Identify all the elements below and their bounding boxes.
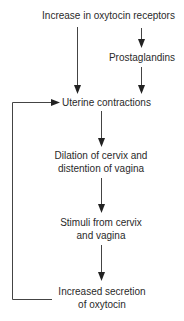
node-increased-secretion: Increased secretion of oxytocin [52, 285, 152, 311]
arrow-feedback-loop [13, 99, 61, 300]
arrow-contractions-to-dilation [98, 111, 105, 147]
node-prostaglandins: Prostaglandins [104, 51, 180, 64]
node-text: Increase in oxytocin receptors [42, 10, 175, 21]
node-text-line-2: of oxytocin [52, 298, 152, 311]
node-uterine-contractions: Uterine contractions [62, 96, 162, 109]
arrow-receptors-to-contractions [74, 27, 81, 94]
arrow-prostaglandins-to-contractions [138, 67, 145, 94]
node-oxytocin-receptors: Increase in oxytocin receptors [40, 9, 177, 22]
node-text-line-1: Stimuli from cervix [51, 216, 151, 229]
node-text-line-1: Increased secretion [52, 285, 152, 298]
node-text-line-2: distention of vagina [46, 162, 156, 175]
node-text-line-2: and vagina [51, 229, 151, 242]
node-text: Uterine contractions [62, 97, 151, 108]
node-text: Prostaglandins [109, 52, 175, 63]
arrow-stimuli-to-secretion [98, 245, 105, 281]
arrow-dilation-to-stimuli [98, 178, 105, 213]
arrow-receptors-to-prostaglandins [138, 28, 145, 48]
node-text-line-1: Dilation of cervix and [46, 149, 156, 162]
node-dilation-distention: Dilation of cervix and distention of vag… [46, 149, 156, 175]
node-stimuli: Stimuli from cervix and vagina [51, 216, 151, 242]
